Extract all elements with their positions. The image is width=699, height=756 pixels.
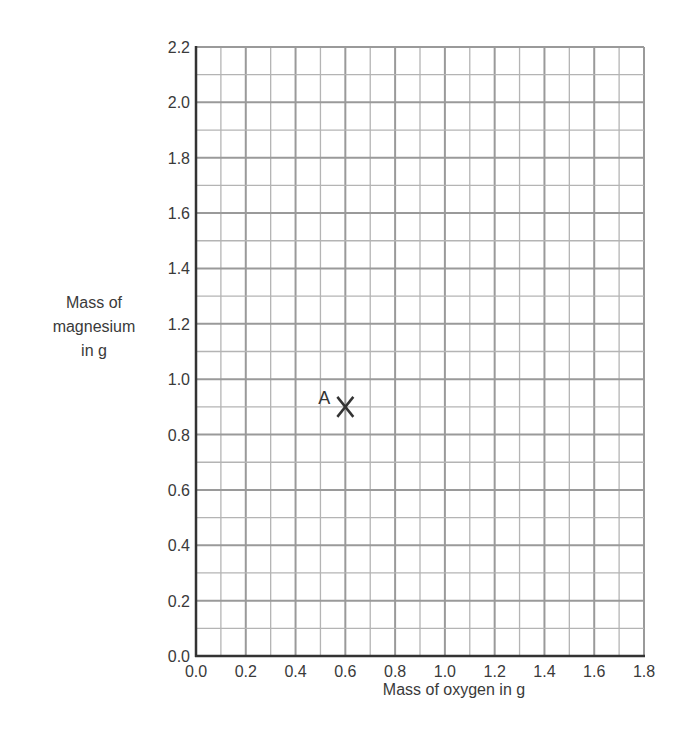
y-tick-label: 0.2 <box>168 593 190 610</box>
data-points: A <box>318 388 353 417</box>
y-tick-label: 1.6 <box>168 205 190 222</box>
grid-lines <box>196 47 644 656</box>
y-tick-label: 1.8 <box>168 150 190 167</box>
x-tick-label: 1.0 <box>434 663 456 680</box>
point-label: A <box>318 388 330 408</box>
data-point-A: A <box>318 388 353 417</box>
x-axis-label: Mass of oxygen in g <box>383 681 525 698</box>
y-axis-label-line: Mass of <box>66 294 123 311</box>
chart: 0.00.20.40.60.81.01.21.41.61.8 0.00.20.4… <box>0 0 699 756</box>
y-tick-labels: 0.00.20.40.60.81.01.21.41.61.82.02.2 <box>168 39 190 665</box>
y-axis-label-line: magnesium <box>53 318 136 335</box>
y-tick-label: 0.4 <box>168 537 190 554</box>
x-tick-label: 0.6 <box>334 663 356 680</box>
y-tick-label: 2.2 <box>168 39 190 56</box>
y-tick-label: 1.4 <box>168 260 190 277</box>
y-tick-label: 0.6 <box>168 482 190 499</box>
x-tick-label: 1.8 <box>633 663 655 680</box>
x-tick-label: 1.4 <box>533 663 555 680</box>
x-tick-label: 1.6 <box>583 663 605 680</box>
x-tick-label: 0.4 <box>284 663 306 680</box>
y-axis-label: Mass ofmagnesiumin g <box>53 294 136 359</box>
x-tick-label: 0.8 <box>384 663 406 680</box>
y-axis-label-line: in g <box>81 342 107 359</box>
x-tick-label: 0.0 <box>185 663 207 680</box>
x-tick-label: 0.2 <box>235 663 257 680</box>
y-tick-label: 1.2 <box>168 316 190 333</box>
x-tick-labels: 0.00.20.40.60.81.01.21.41.61.8 <box>185 663 655 680</box>
y-tick-label: 1.0 <box>168 371 190 388</box>
y-tick-label: 0.0 <box>168 648 190 665</box>
y-tick-label: 2.0 <box>168 94 190 111</box>
x-tick-label: 1.2 <box>484 663 506 680</box>
y-tick-label: 0.8 <box>168 427 190 444</box>
